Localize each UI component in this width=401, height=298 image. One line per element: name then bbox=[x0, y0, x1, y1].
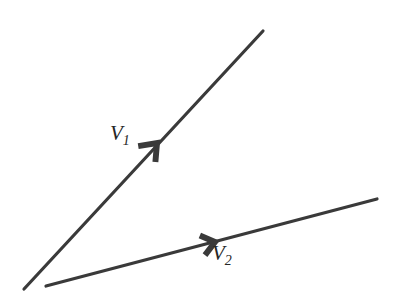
vector-v2-label-subscript: 2 bbox=[225, 253, 232, 268]
vector-v1-label-subscript: 1 bbox=[123, 133, 130, 148]
vector-canvas bbox=[0, 0, 401, 298]
vector-v2-label: V2 bbox=[212, 243, 232, 268]
figure-background bbox=[0, 0, 401, 298]
vector-v1-label-base: V bbox=[110, 121, 123, 145]
vector-diagram-figure: V1 V2 bbox=[0, 0, 401, 298]
vector-v1-label: V1 bbox=[110, 123, 130, 148]
vector-v2-label-base: V bbox=[212, 241, 225, 265]
